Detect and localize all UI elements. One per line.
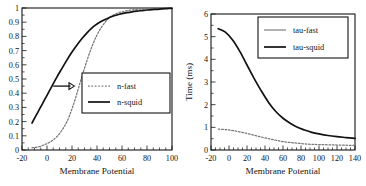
y-tick-label: 0 <box>15 146 19 155</box>
x-tick-label: 20 <box>243 154 251 163</box>
y-tick-label: 6 <box>204 10 208 19</box>
x-tick-label: 60 <box>279 154 287 163</box>
y-tick-label: 4 <box>204 55 208 64</box>
y-tick-label: 0.1 <box>9 132 19 141</box>
legend-label-tau-fast: tau-fast <box>293 26 319 35</box>
y-axis-label: Time (ms) <box>184 63 194 101</box>
figure-root: -2002040608010000.10.20.30.40.50.60.70.8… <box>0 0 366 186</box>
legend-label-tau-squid: tau-squid <box>293 43 325 52</box>
x-tick-label: 40 <box>93 154 101 163</box>
series-curve-tau-fast <box>218 129 355 145</box>
chart-panel-right: -200204060801001201400123456tau-fasttau-… <box>183 0 366 186</box>
x-tick-label: 0 <box>45 154 49 163</box>
y-tick-label: 1 <box>15 4 19 13</box>
x-tick-label: -20 <box>17 154 28 163</box>
y-tick-label: 2 <box>204 101 208 110</box>
x-tick-label: 60 <box>118 154 126 163</box>
y-tick-label: 3 <box>204 78 208 87</box>
y-tick-label: 0.2 <box>9 118 19 127</box>
x-tick-label: 120 <box>331 154 343 163</box>
right-chart-svg: -200204060801001201400123456tau-fasttau-… <box>183 0 366 186</box>
legend-label-n-fast: n-fast <box>117 82 137 91</box>
y-tick-label: 0.4 <box>9 89 19 98</box>
y-tick-label: 0.3 <box>9 103 19 112</box>
x-tick-label: 20 <box>68 154 76 163</box>
chart-panel-left: -2002040608010000.10.20.30.40.50.60.70.8… <box>0 0 183 186</box>
y-tick-label: 1 <box>204 123 208 132</box>
x-axis-label: Membrane Potential <box>246 166 321 176</box>
x-tick-label: 0 <box>227 154 231 163</box>
x-tick-label: -20 <box>206 154 217 163</box>
legend-box <box>82 73 170 113</box>
legend-label-n-squid: n-squid <box>117 98 143 107</box>
y-tick-label: 0.7 <box>9 47 19 56</box>
left-chart-svg: -2002040608010000.10.20.30.40.50.60.70.8… <box>0 0 183 186</box>
y-tick-label: 5 <box>204 33 208 42</box>
y-tick-label: 0.9 <box>9 18 19 27</box>
x-axis-label: Membrane Potential <box>60 166 135 176</box>
x-tick-label: 40 <box>261 154 269 163</box>
y-tick-label: 0.8 <box>9 32 19 41</box>
y-tick-label: 0.6 <box>9 61 19 70</box>
y-tick-label: 0.5 <box>9 75 19 84</box>
x-tick-label: 100 <box>313 154 325 163</box>
x-tick-label: 140 <box>349 154 361 163</box>
x-tick-label: 100 <box>166 154 178 163</box>
y-tick-label: 0 <box>204 146 208 155</box>
x-tick-label: 80 <box>143 154 151 163</box>
x-tick-label: 80 <box>297 154 305 163</box>
